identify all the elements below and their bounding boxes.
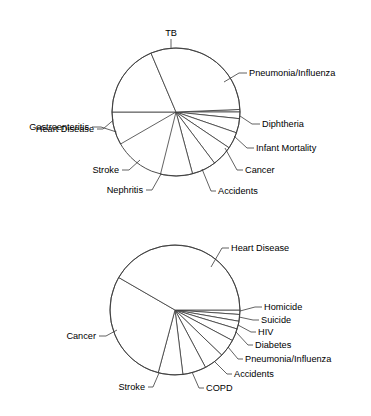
bottom-label-suicide: Suicide [261,315,291,325]
bottom-pie-wedges [110,245,240,375]
bottom-label-hiv: HIV [258,327,274,337]
leader-stroke [122,160,140,170]
bottom-label-accidents: Accidents [234,369,274,379]
leader-bottom-diabetes [236,332,253,345]
bottom-label-homicide: Homicide [264,302,302,312]
leader-bottom-accidents [214,361,232,374]
causes-of-death-svg: TB Gastroenteritis Heart Disease Stroke … [0,0,371,416]
top-wedge-gastroenteritis[interactable] [112,112,176,144]
bottom-label-heart-disease: Heart Disease [231,243,289,253]
bottom-label-diabetes: Diabetes [255,340,292,350]
top-label-tb: TB [165,28,177,38]
top-label-cancer: Cancer [245,165,275,175]
top-label-heart-disease: Heart Disease [36,124,94,134]
leader-bottom-pneumonia-influenza [228,347,243,359]
leader-accidents [202,169,216,191]
leader-bottom-stroke [148,373,159,387]
bottom-pie-chart: Heart Disease Cancer Stroke COPD Acciden… [66,243,332,393]
leader-cancer [225,148,243,170]
top-pie-wedges [112,48,240,176]
top-label-stroke: Stroke [92,165,119,175]
bottom-label-cancer: Cancer [66,331,96,341]
bottom-label-copd: COPD [206,383,233,393]
leader-nephritis [146,174,161,190]
leader-bottom-copd [192,372,204,388]
leader-infant-mortality [234,136,254,148]
leader-heart-disease [97,120,114,129]
top-label-pneumonia-influenza: Pneumonia/Influenza [249,68,336,78]
top-label-infant-mortality: Infant Mortality [256,143,317,153]
top-label-accidents: Accidents [218,186,258,196]
top-label-diphtheria: Diphtheria [262,119,305,129]
top-label-nephritis: Nephritis [107,185,144,195]
bottom-label-pneumonia-influenza: Pneumonia/Influenza [245,354,332,364]
leader-bottom-hiv [238,325,256,332]
top-pie-chart: TB Gastroenteritis Heart Disease Stroke … [29,28,336,196]
leader-bottom-homicide [240,307,262,311]
bottom-label-stroke: Stroke [118,382,145,392]
pie-chart-figure: TB Gastroenteritis Heart Disease Stroke … [0,0,371,416]
leader-bottom-suicide [239,317,259,320]
leader-diphtheria [240,116,260,124]
